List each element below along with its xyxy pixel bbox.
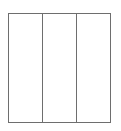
panel-right: [76, 14, 110, 122]
panel-middle: [42, 14, 76, 122]
diagram-canvas: [0, 0, 121, 131]
panel-left: [9, 14, 42, 122]
three-column-frame: [8, 13, 111, 123]
